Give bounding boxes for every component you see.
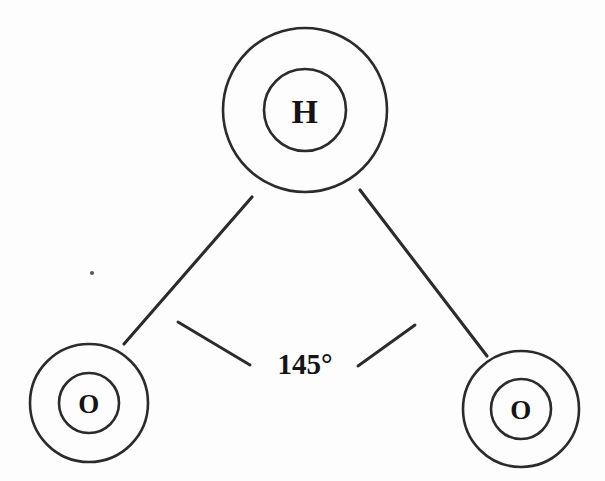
- diagram-canvas: 145° H O O: [0, 0, 605, 481]
- molecule-diagram: 145° H O O: [0, 0, 605, 481]
- bond-hydrogen-oxygen-left: [124, 197, 252, 344]
- scan-speck-artifact: [90, 271, 94, 275]
- bond-hydrogen-oxygen-right: [360, 190, 487, 356]
- atom-oxygen-right: O: [463, 351, 579, 467]
- hydrogen-label: H: [292, 93, 319, 130]
- bond-angle-label: 145°: [277, 348, 332, 380]
- atom-oxygen-left: O: [30, 344, 148, 462]
- atom-hydrogen-top: H: [223, 28, 387, 192]
- angle-tick-right-icon: [358, 325, 415, 366]
- angle-tick-left-icon: [178, 322, 250, 365]
- oxygen-right-label: O: [510, 395, 532, 425]
- bond-group: [124, 190, 487, 356]
- oxygen-left-label: O: [78, 389, 100, 419]
